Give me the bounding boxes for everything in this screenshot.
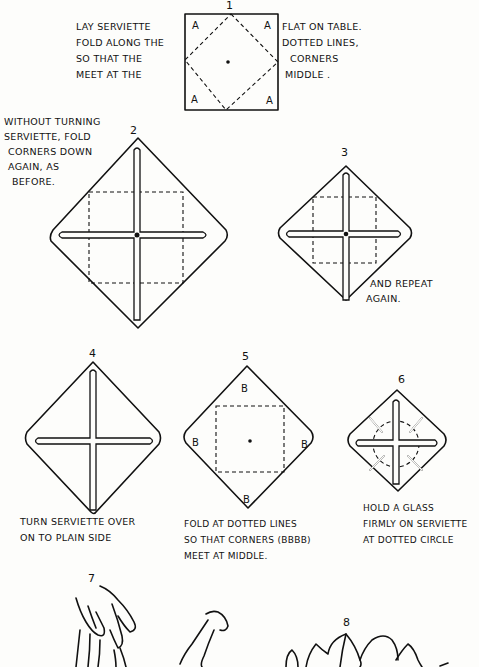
- step7-hand-sketch: [76, 586, 228, 667]
- fold-diagrams: A A A A B B B B: [0, 0, 479, 667]
- corner-label-a: A: [192, 20, 199, 31]
- step6-diagram: [348, 390, 446, 491]
- corner-label-a: A: [266, 95, 273, 106]
- corner-label-a: A: [191, 94, 198, 105]
- step5-diagram: B B B B: [184, 366, 313, 508]
- corner-label-b: B: [192, 437, 199, 448]
- corner-label-b: B: [241, 383, 248, 394]
- step2-diagram: [50, 138, 227, 328]
- step1-diagram: A A A A: [185, 14, 278, 110]
- step8-lotus-sketch: [286, 634, 448, 667]
- step3-diagram: [279, 166, 412, 300]
- corner-label-b: B: [301, 439, 308, 450]
- step4-diagram: [26, 362, 161, 514]
- corner-label-b: B: [243, 494, 250, 505]
- corner-label-a: A: [264, 20, 271, 31]
